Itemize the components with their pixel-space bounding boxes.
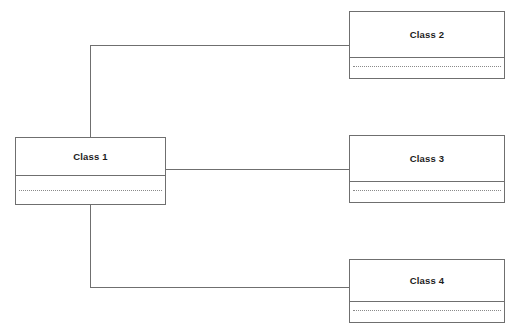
uml-attribute-compartment	[350, 182, 504, 202]
uml-class-name-label: Class 4	[410, 276, 445, 286]
uml-attribute-separator	[19, 190, 162, 191]
uml-class-name-label: Class 1	[73, 152, 108, 162]
uml-name-compartment: Class 1	[16, 138, 165, 176]
uml-class-diagram-canvas: Class 1 Class 2 Class 3 Class 4	[0, 0, 520, 330]
uml-attribute-separator	[353, 310, 501, 311]
uml-attribute-compartment	[16, 176, 165, 204]
uml-attribute-separator	[353, 190, 501, 191]
uml-name-compartment: Class 4	[350, 260, 504, 302]
uml-class-box-class-1[interactable]: Class 1	[15, 137, 166, 205]
uml-class-box-class-2[interactable]: Class 2	[349, 11, 505, 79]
uml-attribute-compartment	[350, 302, 504, 322]
uml-name-compartment: Class 3	[350, 136, 504, 182]
uml-name-compartment: Class 2	[350, 12, 504, 58]
uml-class-box-class-3[interactable]: Class 3	[349, 135, 505, 203]
uml-class-name-label: Class 2	[410, 30, 445, 40]
association-class1-class2[interactable]	[91, 46, 350, 138]
uml-class-name-label: Class 3	[410, 154, 445, 164]
uml-class-box-class-4[interactable]: Class 4	[349, 259, 505, 323]
uml-attribute-compartment	[350, 58, 504, 78]
uml-attribute-separator	[353, 66, 501, 67]
association-class1-class4[interactable]	[91, 205, 350, 288]
